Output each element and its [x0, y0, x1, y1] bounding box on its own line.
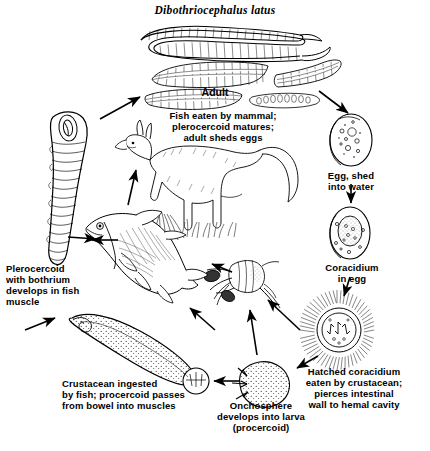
- label-fish-eaten-by-mammal: Fish eaten by mammal; plerocercoid matur…: [133, 110, 313, 143]
- arrow-plerocercoid-into-fish: [68, 237, 96, 239]
- label-adult: Adult: [0, 86, 430, 98]
- arrow-to-procercoid: [190, 308, 215, 330]
- arrow-coracidium-to-copepod: [268, 300, 300, 330]
- label-crustacean-ingested: Crustacean ingested by fish; procercoid …: [62, 378, 222, 411]
- hatched-coracidium-illustration: [300, 290, 374, 370]
- plerocercoid-illustration: [47, 112, 87, 265]
- arrow-to-copepod: [250, 310, 257, 355]
- egg-illustration: [330, 114, 372, 166]
- label-plerocercoid: Plerocercoid with bothrium develops in f…: [6, 263, 116, 307]
- label-coracidium-in-egg: Coracidium in egg: [312, 262, 392, 284]
- arrow-fish-to-mammal: [128, 170, 136, 205]
- arrow-to-fish: [25, 318, 55, 330]
- coracidium-in-egg-illustration: [330, 207, 370, 259]
- label-egg-shed-into-water: Egg, shed into water: [311, 170, 391, 192]
- life-cycle-figure: Dibothriocephalus latus: [0, 0, 430, 451]
